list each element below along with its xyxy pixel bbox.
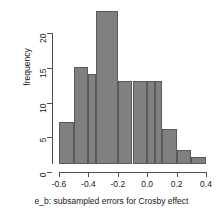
histogram-plot: 05101520 frequency -0.6-0.4-0.20.00.20.4… bbox=[0, 0, 223, 215]
y-axis-line bbox=[52, 33, 53, 164]
histogram-bar bbox=[118, 81, 133, 164]
x-axis-tick bbox=[59, 172, 60, 177]
histogram-bar bbox=[133, 81, 148, 164]
y-axis-tick bbox=[47, 103, 52, 104]
histogram-bars bbox=[59, 14, 206, 164]
y-axis-tick-label: 10 bbox=[39, 103, 48, 125]
y-axis-tick bbox=[47, 68, 52, 69]
x-axis-tick-label: 0.4 bbox=[189, 179, 223, 189]
y-axis-tick-label: 5 bbox=[39, 138, 48, 160]
histogram-bar bbox=[147, 81, 154, 164]
y-axis-tick-label: 20 bbox=[39, 34, 48, 56]
histogram-bar bbox=[59, 122, 74, 164]
histogram-bar bbox=[96, 11, 118, 164]
y-axis-tick bbox=[47, 172, 52, 173]
x-axis-tick bbox=[147, 172, 148, 177]
histogram-bar bbox=[191, 157, 206, 164]
histogram-bar bbox=[155, 81, 162, 164]
y-axis-tick bbox=[47, 137, 52, 138]
y-axis-tick bbox=[47, 33, 52, 34]
x-axis-tick bbox=[206, 172, 207, 177]
histogram-bar bbox=[162, 129, 177, 164]
x-axis-tick bbox=[177, 172, 178, 177]
x-axis-line bbox=[59, 172, 206, 173]
x-axis-label: e_b: subsampled errors for Crosby effect bbox=[0, 196, 223, 206]
histogram-bar bbox=[177, 150, 192, 164]
plot-panel bbox=[59, 14, 206, 164]
histogram-bar bbox=[74, 67, 89, 164]
y-axis-tick-label: 15 bbox=[39, 68, 48, 90]
histogram-bar bbox=[88, 74, 95, 164]
x-axis-tick bbox=[88, 172, 89, 177]
x-axis-tick bbox=[118, 172, 119, 177]
y-axis-label: frequency bbox=[22, 37, 32, 97]
